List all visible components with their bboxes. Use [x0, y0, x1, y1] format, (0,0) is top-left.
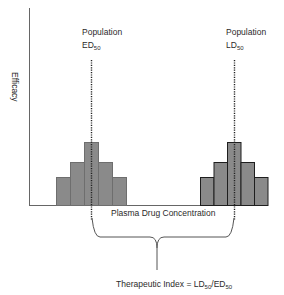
ld-bar-2	[214, 163, 228, 206]
ld-bar-5	[255, 178, 269, 206]
x-axis-label: Plasma Drug Concentration	[111, 208, 216, 218]
ed-bar-5	[113, 178, 127, 206]
ed50-label-population: Population	[82, 27, 122, 37]
ld-bar-1	[201, 178, 215, 206]
ed50-label: ED50	[82, 40, 101, 51]
ed-bar-1	[57, 178, 71, 206]
ld50-label-population: Population	[226, 27, 266, 37]
y-axis-label: Efficacy	[10, 72, 20, 102]
ed-bar-2	[71, 163, 85, 206]
ld-bar-4	[241, 163, 255, 206]
ld50-label: LD50	[226, 40, 244, 51]
therapeutic-range-brace	[92, 218, 234, 270]
therapeutic-index-diagram: Efficacy Population ED50 Population LD50…	[0, 0, 284, 295]
ed-bar-4	[99, 163, 113, 206]
therapeutic-index-label: Therapeutic Index = LD50/ED50	[116, 279, 233, 290]
